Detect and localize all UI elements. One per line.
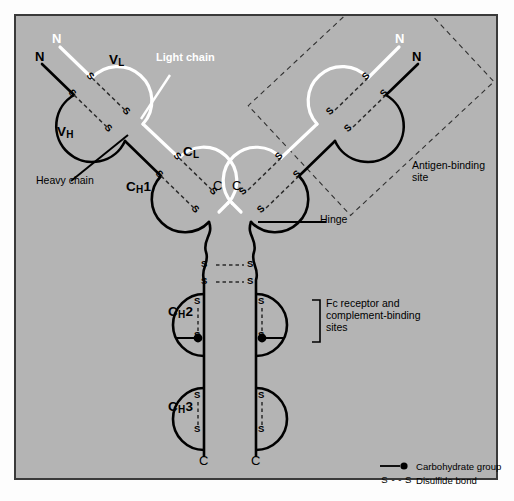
- antigen-binding-line1: Antigen-binding: [412, 159, 485, 171]
- domain-name: V: [109, 52, 118, 67]
- sulfur-glyph: S: [258, 330, 264, 341]
- hinge-disulfides: [216, 265, 244, 282]
- fc-line-2: complement-binding: [326, 309, 421, 321]
- legend-item-carbohydrate: Carbohydrate group: [368, 459, 508, 473]
- c-terminus-heavy-left: C: [199, 454, 208, 469]
- antigen-binding-line2: site: [412, 171, 428, 183]
- domain-label-VH: VH: [57, 124, 74, 140]
- legend: Carbohydrate group S - - S Disulfide bon…: [368, 459, 508, 487]
- domain-name: C: [168, 399, 178, 414]
- sulfur-glyph: S: [201, 276, 207, 287]
- figure-root: N N N N C C C C VL VH CL CH1 CH2 CH3 Lig…: [0, 0, 514, 501]
- fc-receptor-label: Fc receptor and complement-binding sites: [326, 298, 421, 333]
- sulfur-glyph: S: [194, 296, 200, 307]
- n-terminus-light-right: N: [395, 32, 404, 47]
- hinge-label: Hinge: [320, 214, 347, 226]
- antigen-binding-site-label: Antigen-binding site: [412, 160, 485, 184]
- light-chain-right: [223, 47, 399, 212]
- intrachain-disulfides: [198, 308, 262, 428]
- antigen-binding-box: [248, 16, 494, 215]
- legend-label-disulfide: Disulfide bond: [416, 475, 477, 486]
- sulfur-glyph: S: [194, 390, 200, 401]
- domain-suffix: 3: [185, 399, 193, 414]
- domain-sub: H: [66, 129, 73, 140]
- heavy-chain-left: [42, 64, 210, 456]
- sulfur-glyph: S: [258, 390, 264, 401]
- fc-line-3: sites: [326, 321, 348, 333]
- heavy-chain-right: [250, 64, 418, 456]
- diagram-panel: N N N N C C C C VL VH CL CH1 CH2 CH3 Lig…: [14, 14, 498, 480]
- heavy-chain-label: Heavy chain: [36, 175, 94, 187]
- legend-item-disulfide: S - - S Disulfide bond: [368, 473, 508, 487]
- domain-name: V: [57, 124, 66, 139]
- domain-label-CH1: CH1: [126, 179, 151, 195]
- fc-line-1: Fc receptor and: [326, 297, 400, 309]
- sulfur-glyph: S: [258, 424, 264, 435]
- domain-name: C: [126, 179, 136, 194]
- domain-suffix: 1: [143, 179, 151, 194]
- n-terminus-heavy-left: N: [35, 50, 44, 65]
- light-chain-label: Light chain: [156, 51, 215, 63]
- antibody-diagram-svg: [16, 16, 496, 478]
- domain-label-CH3: CH3: [168, 399, 193, 415]
- domain-suffix: 2: [185, 304, 193, 319]
- carbohydrate-icon: [368, 460, 412, 472]
- domain-label-CH2: CH2: [168, 304, 193, 320]
- domain-name: C: [183, 144, 193, 159]
- domain-sub: L: [193, 149, 199, 160]
- sulfur-glyph: S: [247, 276, 253, 287]
- sulfur-glyph: S: [194, 424, 200, 435]
- domain-label-CL: CL: [183, 144, 199, 160]
- disulfide-dashes-arms: [74, 78, 386, 211]
- domain-label-VL: VL: [109, 52, 125, 68]
- n-terminus-light-left: N: [52, 32, 61, 47]
- fc-bracket: [312, 300, 320, 342]
- legend-label-carbohydrate: Carbohydrate group: [416, 461, 501, 472]
- domain-sub: L: [118, 57, 124, 68]
- sulfur-glyph: S: [194, 330, 200, 341]
- c-terminus-heavy-right: C: [251, 454, 260, 469]
- n-terminus-heavy-right: N: [412, 50, 421, 65]
- sulfur-glyph: S: [258, 296, 264, 307]
- sulfur-glyph: S: [247, 259, 253, 270]
- sulfur-glyph: S: [201, 259, 207, 270]
- disulfide-icon: S - - S: [368, 474, 412, 486]
- domain-name: C: [168, 304, 178, 319]
